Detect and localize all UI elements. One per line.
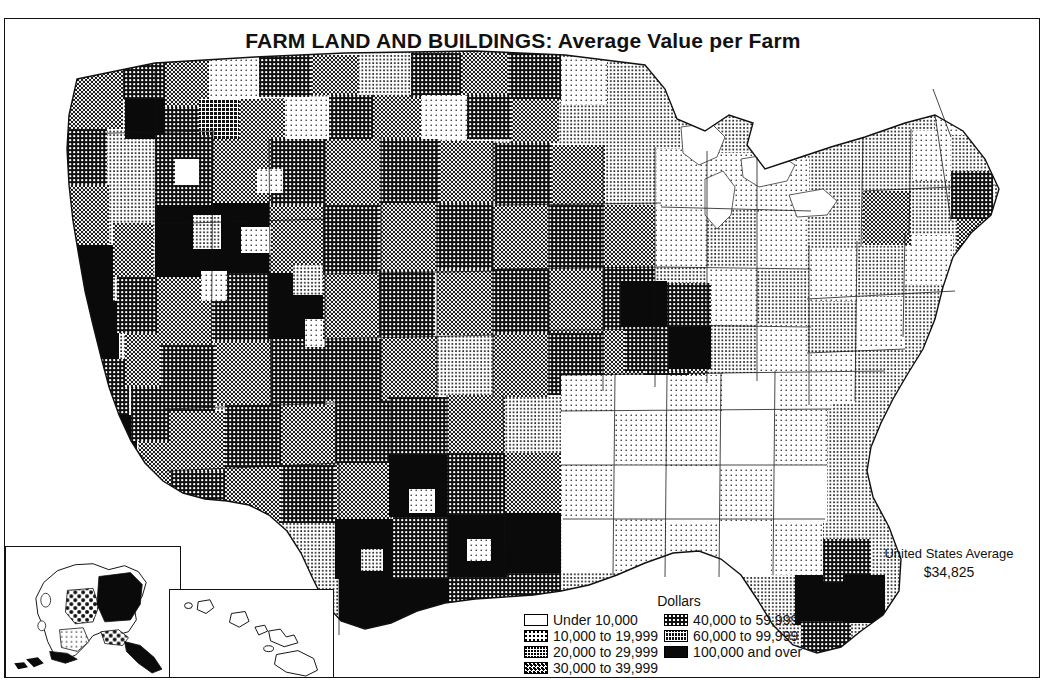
map-legend: Dollars Under 10,000 10,000 to 19,999 20… bbox=[524, 593, 834, 675]
legend-title: Dollars bbox=[524, 593, 834, 609]
national-average-value: $34,825 bbox=[861, 564, 1037, 580]
legend-swatch-under-10000 bbox=[524, 614, 548, 626]
legend-item[interactable]: 100,000 and over bbox=[664, 644, 802, 659]
map-frame: FARM LAND AND BUILDINGS: Average Value p… bbox=[4, 18, 1040, 678]
legend-label: 10,000 to 19,999 bbox=[553, 629, 658, 643]
legend-label: 100,000 and over bbox=[693, 645, 802, 659]
legend-column-right: 40,000 to 59,999 60,000 to 99,999 100,00… bbox=[664, 612, 802, 675]
legend-swatch-60000-99999 bbox=[664, 630, 688, 642]
legend-swatch-30000-39999 bbox=[524, 662, 548, 674]
legend-item[interactable]: 60,000 to 99,999 bbox=[664, 628, 802, 643]
legend-item[interactable]: 10,000 to 19,999 bbox=[524, 628, 658, 643]
national-average-label: United States Average bbox=[861, 546, 1037, 561]
legend-swatch-100000-and-over bbox=[664, 646, 688, 658]
national-average-callout: United States Average $34,825 bbox=[861, 546, 1037, 580]
hawaii-inset bbox=[169, 589, 334, 678]
legend-item[interactable]: 40,000 to 59,999 bbox=[664, 612, 802, 627]
legend-item[interactable]: Under 10,000 bbox=[524, 612, 658, 627]
legend-column-left: Under 10,000 10,000 to 19,999 20,000 to … bbox=[524, 612, 658, 675]
legend-item[interactable]: 30,000 to 39,999 bbox=[524, 660, 658, 675]
legend-swatch-40000-59999 bbox=[664, 614, 688, 626]
legend-label: Under 10,000 bbox=[553, 613, 638, 627]
legend-label: 60,000 to 99,999 bbox=[693, 629, 798, 643]
legend-label: 40,000 to 59,999 bbox=[693, 613, 798, 627]
legend-item[interactable]: 20,000 to 29,999 bbox=[524, 644, 658, 659]
alaska-inset bbox=[5, 546, 181, 678]
legend-label: 30,000 to 39,999 bbox=[553, 661, 658, 675]
legend-label: 20,000 to 29,999 bbox=[553, 645, 658, 659]
legend-swatch-10000-19999 bbox=[524, 630, 548, 642]
legend-swatch-20000-29999 bbox=[524, 646, 548, 658]
